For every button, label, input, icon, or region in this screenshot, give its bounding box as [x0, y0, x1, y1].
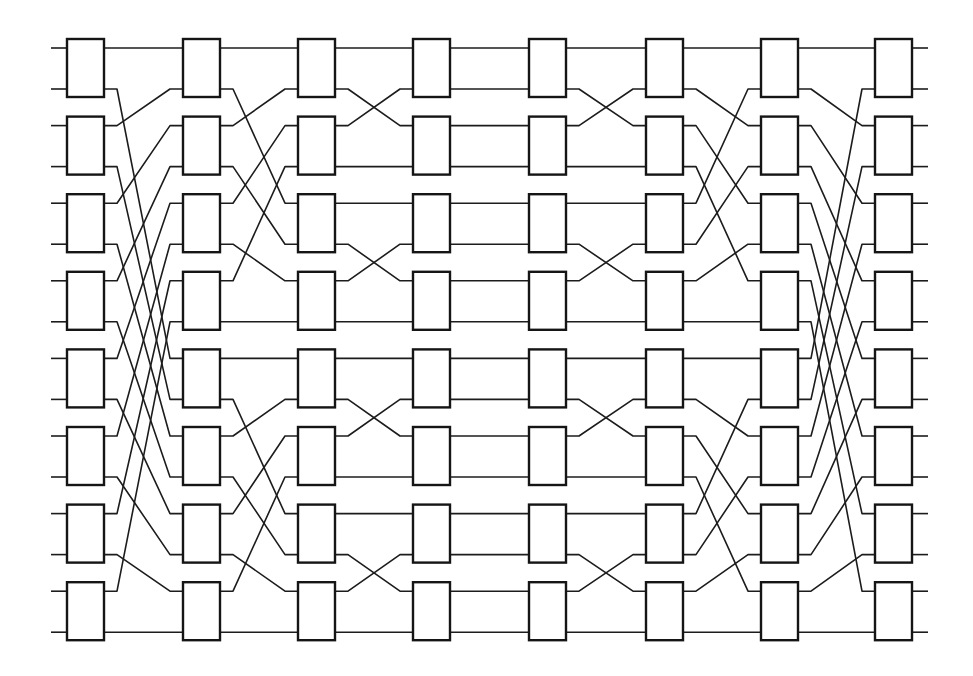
wire-stage5-10-to-9 — [566, 399, 646, 436]
switch-box-c1-r1 — [67, 39, 104, 97]
switch-box-c7-r4 — [761, 272, 798, 330]
wire-stage1-12-to-6 — [104, 281, 183, 514]
switch-box-c4-r4 — [413, 272, 450, 330]
switch-box-c8-r8 — [875, 582, 912, 640]
wire-stage2-13-to-14 — [220, 555, 298, 592]
switch-box-c4-r5 — [413, 349, 450, 407]
switch-box-c1-r2 — [67, 117, 104, 175]
switch-box-c1-r5 — [67, 349, 104, 407]
switch-column-7 — [761, 39, 798, 640]
switch-box-c7-r2 — [761, 117, 798, 175]
switch-box-c3-r8 — [298, 582, 335, 640]
switch-box-c5-r4 — [529, 272, 566, 330]
wire-stage2-6-to-3 — [220, 167, 298, 281]
switch-box-c7-r6 — [761, 427, 798, 485]
wire-stage2-4-to-2 — [220, 126, 298, 204]
switch-box-c5-r5 — [529, 349, 566, 407]
switch-box-c6-r8 — [646, 582, 683, 640]
wire-stage6-10-to-12 — [683, 436, 761, 514]
switch-box-c8-r7 — [875, 505, 912, 563]
wire-stage7-9-to-3 — [798, 167, 875, 400]
switch-box-c4-r6 — [413, 427, 450, 485]
switch-box-c4-r8 — [413, 582, 450, 640]
switch-box-c8-r2 — [875, 117, 912, 175]
switch-box-c2-r6 — [183, 427, 220, 485]
switch-box-c8-r6 — [875, 427, 912, 485]
switch-box-c3-r6 — [298, 427, 335, 485]
switch-box-c2-r7 — [183, 505, 220, 563]
wire-stage6-13-to-11 — [683, 477, 761, 555]
switch-box-c7-r1 — [761, 39, 798, 97]
wire-stage6-2-to-4 — [683, 126, 761, 204]
switch-box-c3-r5 — [298, 349, 335, 407]
wire-stage1-6-to-3 — [104, 167, 183, 281]
wire-stage6-9-to-10 — [683, 399, 761, 436]
switch-box-c3-r4 — [298, 272, 335, 330]
switch-box-c6-r3 — [646, 194, 683, 252]
switch-box-c4-r3 — [413, 194, 450, 252]
wire-stage7-8-to-1 — [798, 89, 875, 358]
switch-box-c7-r5 — [761, 349, 798, 407]
wire-stage1-14-to-7 — [104, 322, 183, 591]
wire-stage6-6-to-5 — [683, 244, 761, 281]
switch-box-c2-r5 — [183, 349, 220, 407]
switch-columns — [67, 39, 912, 640]
switch-box-c6-r2 — [646, 117, 683, 175]
switch-box-c7-r3 — [761, 194, 798, 252]
wire-stage3-2-to-1 — [335, 89, 413, 126]
switch-box-c7-r8 — [761, 582, 798, 640]
wire-stage5-14-to-13 — [566, 555, 646, 592]
switch-column-2 — [183, 39, 220, 640]
switch-box-c1-r6 — [67, 427, 104, 485]
wire-stage5-6-to-5 — [566, 244, 646, 281]
wire-stage7-1-to-2 — [798, 89, 875, 126]
switch-box-c5-r1 — [529, 39, 566, 97]
wire-stage2-10-to-9 — [220, 399, 298, 436]
wire-stage1-10-to-5 — [104, 244, 183, 436]
wire-stage7-10-to-5 — [798, 244, 875, 436]
wire-stage1-2-to-1 — [104, 89, 183, 126]
switch-box-c1-r7 — [67, 505, 104, 563]
wire-stage3-6-to-5 — [335, 244, 413, 281]
wire-stage2-11-to-13 — [220, 477, 298, 555]
wire-stage6-1-to-2 — [683, 89, 761, 126]
switch-box-c6-r5 — [646, 349, 683, 407]
switch-box-c5-r2 — [529, 117, 566, 175]
switch-box-c5-r3 — [529, 194, 566, 252]
wire-stage1-4-to-2 — [104, 126, 183, 204]
switch-box-c4-r1 — [413, 39, 450, 97]
wire-stage2-1-to-4 — [220, 89, 298, 203]
switch-box-c2-r2 — [183, 117, 220, 175]
switch-box-c5-r7 — [529, 505, 566, 563]
switch-column-6 — [646, 39, 683, 640]
wire-stage1-11-to-13 — [104, 477, 183, 555]
switch-box-c4-r2 — [413, 117, 450, 175]
wire-stage2-5-to-6 — [220, 244, 298, 281]
switch-box-c6-r4 — [646, 272, 683, 330]
switch-column-8 — [875, 39, 912, 640]
wire-stage6-12-to-9 — [683, 399, 761, 513]
switch-column-3 — [298, 39, 335, 640]
wire-stage6-3-to-6 — [683, 167, 761, 281]
wire-stage7-14-to-13 — [798, 555, 875, 592]
switch-box-c6-r1 — [646, 39, 683, 97]
wire-stage2-2-to-1 — [220, 89, 298, 126]
wire-stage1-13-to-14 — [104, 555, 183, 592]
switch-box-c3-r1 — [298, 39, 335, 97]
wire-stage7-13-to-11 — [798, 477, 875, 555]
wire-stage2-9-to-12 — [220, 399, 298, 513]
switch-box-c8-r5 — [875, 349, 912, 407]
switch-box-c3-r2 — [298, 117, 335, 175]
switch-box-c2-r1 — [183, 39, 220, 97]
wire-stage6-5-to-3 — [683, 167, 761, 245]
switch-box-c8-r4 — [875, 272, 912, 330]
wire-stage3-10-to-9 — [335, 399, 413, 436]
wire-stage3-14-to-13 — [335, 555, 413, 592]
switch-box-c2-r3 — [183, 194, 220, 252]
switch-box-c6-r7 — [646, 505, 683, 563]
switch-column-1 — [67, 39, 104, 640]
switch-box-c2-r4 — [183, 272, 220, 330]
wire-stage7-2-to-4 — [798, 126, 875, 204]
switch-box-c2-r8 — [183, 582, 220, 640]
switch-box-c1-r3 — [67, 194, 104, 252]
